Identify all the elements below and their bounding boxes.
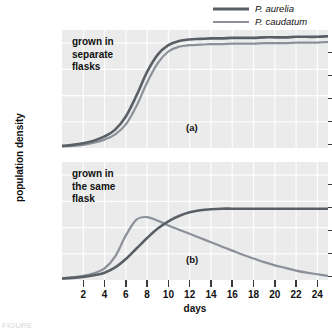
legend-label-p-aurelia: P. aurelia (255, 2, 294, 15)
figure-caption-clipped: FIGURE (2, 322, 177, 328)
x-tick-label: 14 (205, 289, 216, 300)
tick-mark (231, 280, 233, 287)
tick-mark (189, 280, 191, 287)
x-axis-title: days (62, 303, 328, 314)
tick-mark (295, 280, 297, 287)
legend-item-p-caudatum: P. caudatum (213, 15, 332, 28)
tick-mark (253, 280, 255, 287)
y-axis-title: population density (14, 73, 25, 243)
line-swatch-icon (213, 2, 249, 15)
panel-b-note: grown in the same flask (72, 168, 115, 206)
line-swatch-icon (213, 15, 249, 28)
x-tick-label: 18 (248, 289, 259, 300)
x-tick-label: 2 (80, 289, 86, 300)
x-tick-label: 22 (291, 289, 302, 300)
x-tick-label: 24 (312, 289, 323, 300)
x-tick-label: 4 (102, 289, 108, 300)
x-tick-label: 16 (227, 289, 238, 300)
x-tick-label: 8 (144, 289, 150, 300)
legend-item-p-aurelia: P. aurelia (213, 2, 332, 15)
chart-legend: P. aurelia P. caudatum (213, 2, 332, 28)
tick-mark (168, 280, 170, 287)
x-tick-label: 6 (123, 289, 129, 300)
panel-a-note: grown in separate flasks (72, 36, 114, 74)
tick-mark (146, 280, 148, 287)
panel-b-tag: (b) (186, 254, 198, 265)
tick-mark (210, 280, 212, 287)
figure-gause-competition: P. aurelia P. caudatum population densit… (0, 0, 332, 329)
series-line-p-caudatum (62, 217, 328, 278)
tick-mark (83, 280, 85, 287)
x-tick-label: 10 (163, 289, 174, 300)
x-tick-label: 20 (269, 289, 280, 300)
plot-panel-b: grown in the same flask (b) (62, 162, 328, 280)
plot-panel-a: grown in separate flasks (a) (62, 30, 328, 148)
tick-mark (104, 280, 106, 287)
tick-mark (125, 280, 127, 287)
tick-mark (317, 280, 319, 287)
panel-a-tag: (a) (186, 122, 198, 133)
tick-mark (274, 280, 276, 287)
x-tick-label: 12 (184, 289, 195, 300)
legend-label-p-caudatum: P. caudatum (255, 15, 307, 28)
